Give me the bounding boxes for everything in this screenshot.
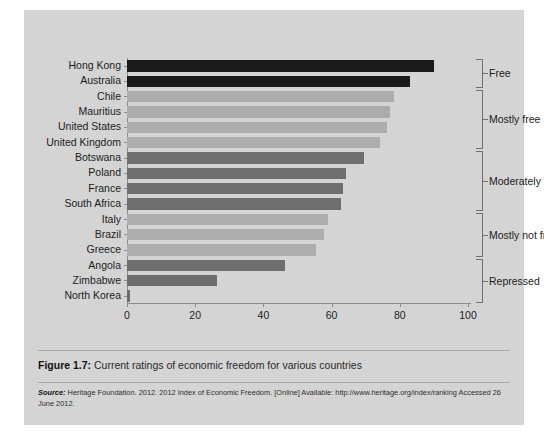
source-divider (38, 382, 510, 383)
group-bracket (476, 151, 483, 211)
caption-divider (38, 350, 510, 351)
group-bracket-stem (483, 119, 488, 120)
chart-area: Hong KongAustraliaChileMauritiusUnited S… (24, 30, 524, 348)
group-label: Moderately free (489, 175, 544, 187)
group-bracket-stem (483, 181, 488, 182)
group-brackets: FreeMostly freeModerately freeMostly not… (24, 30, 524, 348)
group-bracket-stem (483, 281, 488, 282)
group-bracket (476, 213, 483, 257)
group-label: Free (489, 67, 511, 79)
figure-caption-text: Current ratings of economic freedom for … (91, 359, 362, 371)
source-text: Heritage Foundation. 2012. 2012 Index of… (38, 388, 501, 408)
figure-number: Figure 1.7: (38, 359, 91, 371)
source-label: Source: (38, 388, 66, 397)
group-bracket (476, 59, 483, 88)
figure-caption: Figure 1.7: Current ratings of economic … (38, 358, 510, 372)
figure-panel: Hong KongAustraliaChileMauritiusUnited S… (24, 10, 524, 425)
group-label: Mostly free (489, 113, 540, 125)
figure-source: Source: Heritage Foundation. 2012. 2012 … (38, 388, 516, 409)
group-bracket-stem (483, 73, 488, 74)
group-bracket (476, 259, 483, 303)
group-label: Repressed (489, 275, 540, 287)
group-bracket (476, 90, 483, 150)
group-bracket-stem (483, 235, 488, 236)
group-label: Mostly not free (489, 229, 544, 241)
